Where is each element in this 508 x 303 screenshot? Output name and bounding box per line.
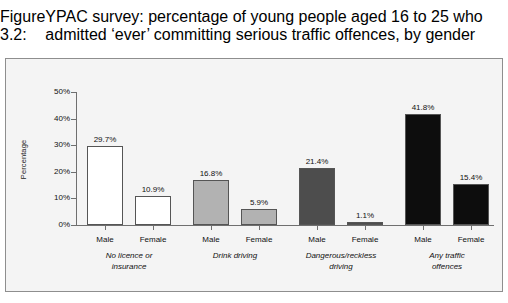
x-axis-tick-mark bbox=[365, 226, 366, 230]
x-axis-group-label: Any trafficoffences bbox=[392, 251, 502, 272]
bar bbox=[299, 168, 335, 225]
x-axis-tick-mark bbox=[153, 226, 154, 230]
bar-value-label: 21.4% bbox=[287, 157, 347, 166]
x-axis-tick-mark bbox=[105, 226, 106, 230]
bar-value-label: 29.7% bbox=[75, 135, 135, 144]
bar-value-label: 10.9% bbox=[123, 185, 183, 194]
bar bbox=[193, 180, 229, 225]
figure-title-block: Figure 3.2: YPAC survey: percentage of y… bbox=[0, 0, 508, 52]
x-axis-group-label: Dangerous/recklessdriving bbox=[286, 251, 396, 272]
bar-value-label: 16.8% bbox=[181, 169, 241, 178]
x-axis-group-label: No licence orinsurance bbox=[74, 251, 184, 272]
bar bbox=[347, 222, 383, 225]
bar-value-label: 41.8% bbox=[393, 103, 453, 112]
y-axis-tick-label: 30% bbox=[42, 140, 70, 149]
figure-caption: YPAC survey: percentage of young people … bbox=[45, 8, 508, 44]
bar-value-label: 1.1% bbox=[335, 211, 395, 220]
x-axis-category-label: Female bbox=[229, 235, 289, 244]
bar-value-label: 5.9% bbox=[229, 198, 289, 207]
y-axis-line bbox=[76, 92, 77, 226]
x-axis-line bbox=[76, 225, 494, 226]
x-axis-group-label: Drink driving bbox=[180, 251, 290, 262]
x-axis-tick-mark bbox=[259, 226, 260, 230]
bar bbox=[405, 114, 441, 225]
bar bbox=[135, 196, 171, 225]
y-axis-tick-label: 20% bbox=[42, 167, 70, 176]
y-axis-tick-label: 10% bbox=[42, 193, 70, 202]
bar bbox=[87, 146, 123, 225]
bar bbox=[453, 184, 489, 225]
x-axis-tick-mark bbox=[317, 226, 318, 230]
x-axis-category-label: Female bbox=[335, 235, 395, 244]
y-axis-label: Percentage bbox=[19, 120, 28, 200]
x-axis-tick-mark bbox=[471, 226, 472, 230]
y-axis-tick-label: 50% bbox=[42, 87, 70, 96]
x-axis-category-label: Female bbox=[123, 235, 183, 244]
bar-value-label: 15.4% bbox=[441, 173, 501, 182]
figure-number: Figure 3.2: bbox=[0, 8, 45, 44]
chart-panel: Percentage 0%10%20%30%40%50% 29.7%10.9%1… bbox=[5, 58, 503, 292]
plot-area: Percentage 0%10%20%30%40%50% 29.7%10.9%1… bbox=[6, 59, 502, 291]
x-axis-tick-mark bbox=[423, 226, 424, 230]
y-axis-tick-label: 40% bbox=[42, 114, 70, 123]
bar bbox=[241, 209, 277, 225]
y-axis-tick-label: 0% bbox=[42, 220, 70, 229]
x-axis-tick-mark bbox=[211, 226, 212, 230]
x-axis-category-label: Female bbox=[441, 235, 501, 244]
